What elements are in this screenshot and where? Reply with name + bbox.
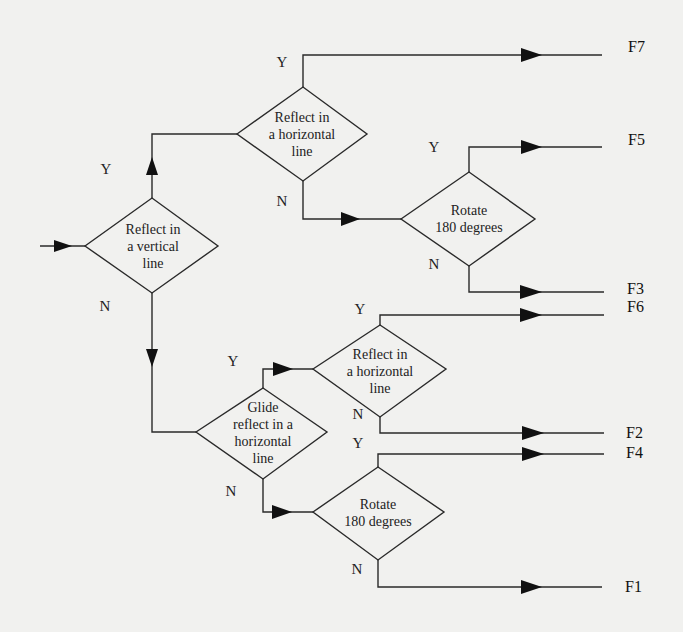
arrow-f4-icon — [522, 447, 544, 461]
outcome-f5: F5 — [628, 131, 645, 149]
branch-label-d4-yes: Y — [228, 353, 239, 370]
branch-label-d6-no: N — [352, 561, 363, 578]
arrow-d6-icon — [272, 505, 292, 519]
node-reflect-vertical: Reflect in a vertical line — [126, 221, 181, 272]
arrow-f2-icon — [522, 426, 544, 440]
arrow-up-icon — [146, 157, 158, 175]
branch-label-d1-yes: Y — [101, 161, 112, 178]
flowchart-canvas: Reflect in a vertical line Reflect in a … — [0, 0, 683, 632]
arrow-d3-icon — [341, 212, 360, 226]
arrow-f1-icon — [521, 580, 542, 594]
branch-label-d3-yes: Y — [429, 139, 440, 156]
arrow-f5-icon — [521, 140, 542, 154]
arrow-entry-icon — [54, 240, 72, 252]
branch-label-d4-no: N — [226, 483, 237, 500]
outcome-f4: F4 — [626, 444, 643, 462]
outcome-f3: F3 — [627, 280, 644, 298]
branch-label-d5-no: N — [353, 406, 364, 423]
node-reflect-horizontal-bottom: Reflect in a horizontal line — [347, 346, 413, 397]
outcome-f6: F6 — [627, 298, 644, 316]
outcome-f7: F7 — [628, 38, 645, 56]
arrow-f3-icon — [520, 285, 542, 299]
node-reflect-horizontal-top: Reflect in a horizontal line — [269, 109, 335, 160]
branch-label-d6-yes: Y — [353, 435, 364, 452]
arrow-f6-icon — [520, 308, 542, 322]
node-glide-reflect: Glide reflect in a horizontal line — [233, 399, 293, 467]
branch-label-d3-no: N — [429, 256, 440, 273]
node-rotate-bottom: Rotate 180 degrees — [344, 496, 411, 530]
arrow-f7-icon — [521, 48, 542, 62]
branch-label-d2-yes: Y — [277, 54, 288, 71]
branch-label-d1-no: N — [100, 298, 111, 315]
branch-label-d5-yes: Y — [355, 301, 366, 318]
outcome-f1: F1 — [625, 578, 642, 596]
arrow-down-icon — [146, 349, 158, 367]
outcome-f2: F2 — [626, 424, 643, 442]
node-rotate-top: Rotate 180 degrees — [435, 202, 502, 236]
branch-label-d2-no: N — [277, 193, 288, 210]
flowchart-lines — [0, 0, 683, 632]
arrow-d5-icon — [273, 362, 293, 376]
